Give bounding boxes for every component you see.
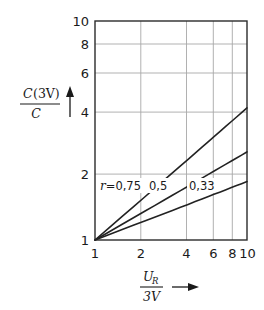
- y-tick-labels: 10 8 6 4 2 1: [72, 14, 89, 248]
- x-axis-title: U R 3V: [140, 269, 199, 304]
- log-log-chart: 10 8 6 4 2 1 1 2 4 6 8 10 r=0,75 0,5 0,3…: [0, 0, 264, 310]
- x-axis-denominator: 3V: [143, 289, 162, 304]
- curve-label-r-075: r=0,75: [100, 179, 141, 193]
- x-tick-labels: 1 2 4 6 8 10: [91, 246, 256, 261]
- plot-background: [95, 21, 247, 240]
- chart-figure: 10 8 6 4 2 1 1 2 4 6 8 10 r=0,75 0,5 0,3…: [0, 0, 264, 310]
- y-tick-label-4: 4: [81, 105, 89, 120]
- curve-label-r-05: 0,5: [149, 179, 167, 193]
- y-axis-title: C (3V) C: [20, 86, 74, 121]
- x-tick-label-8: 8: [228, 246, 236, 261]
- x-axis-numerator-sub: R: [151, 276, 159, 286]
- right-arrow-icon: [172, 283, 199, 291]
- r-equals: =: [106, 179, 116, 193]
- x-tick-label-4: 4: [182, 246, 190, 261]
- x-tick-label-2: 2: [137, 246, 145, 261]
- curve-label-r-033: 0,33: [189, 179, 215, 193]
- y-tick-label-10: 10: [72, 14, 89, 29]
- x-tick-label-1: 1: [91, 246, 99, 261]
- y-axis-numerator-arg: (3V): [33, 86, 60, 101]
- y-tick-label-6: 6: [81, 66, 89, 81]
- y-axis-numerator-main: C: [23, 86, 33, 101]
- y-tick-label-2: 2: [81, 167, 89, 182]
- y-axis-denominator: C: [31, 106, 41, 121]
- y-tick-label-8: 8: [81, 37, 89, 52]
- up-arrow-icon: [66, 86, 74, 117]
- x-tick-label-10: 10: [239, 246, 256, 261]
- curve-annotations: r=0,75 0,5 0,33: [98, 178, 215, 193]
- x-tick-label-6: 6: [209, 246, 217, 261]
- r-value-first: 0,75: [115, 179, 141, 193]
- y-tick-label-1: 1: [81, 233, 89, 248]
